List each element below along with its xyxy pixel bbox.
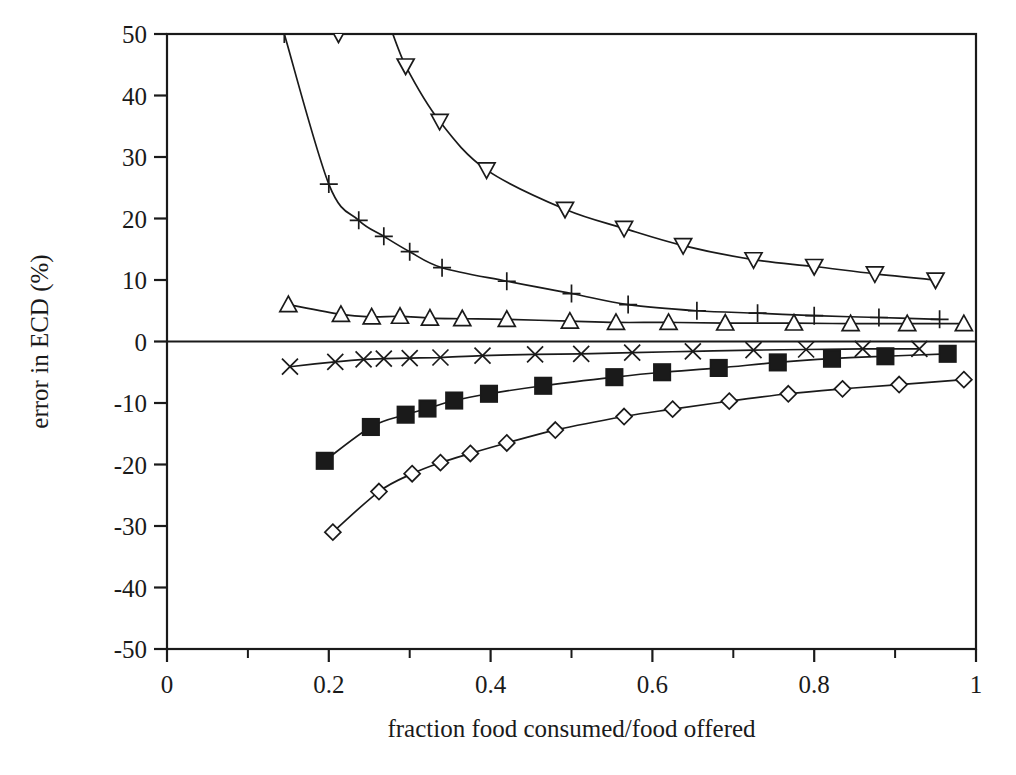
data-point-square [446,392,462,408]
y-axis-tick-label: 20 [122,206,147,233]
data-point-square [711,360,727,376]
data-point-square [481,386,497,402]
y-axis-tick-label: 10 [122,267,147,294]
chart-figure: 50403020100-10-20-30-40-5000.20.40.60.81… [0,0,1016,775]
x-axis-tick-label: 0.8 [799,671,830,698]
x-axis-tick-label: 0.6 [637,671,668,698]
x-axis-tick-label: 0.2 [313,671,344,698]
y-axis-tick-label: 40 [122,83,147,110]
data-point-square [606,369,622,385]
data-point-square [363,419,379,435]
error-in-ecd-line-chart: 50403020100-10-20-30-40-5000.20.40.60.81… [0,0,1016,775]
y-axis-tick-label: -30 [114,513,147,540]
data-point-square [317,453,333,469]
y-axis-tick-label: 0 [135,329,148,356]
x-axis-tick-label: 1 [970,671,983,698]
y-axis-tick-label: 50 [122,21,147,48]
data-point-square [877,348,893,364]
y-axis-tick-label: -10 [114,390,147,417]
data-point-square [770,354,786,370]
y-axis-tick-label: -50 [114,636,147,663]
y-axis-tick-label: -40 [114,575,147,602]
data-point-square [824,351,840,367]
data-point-square [654,364,670,380]
x-axis-title: fraction food consumed/food offered [387,715,756,742]
x-axis-tick-label: 0.4 [475,671,507,698]
data-point-square [419,400,435,416]
x-axis-tick-label: 0 [161,671,174,698]
data-point-square [939,346,955,362]
y-axis-tick-label: -20 [114,452,147,479]
data-point-square [397,406,413,422]
y-axis-tick-label: 30 [122,144,147,171]
data-point-square [535,378,551,394]
y-axis-title: error in ECD (%) [26,254,54,428]
